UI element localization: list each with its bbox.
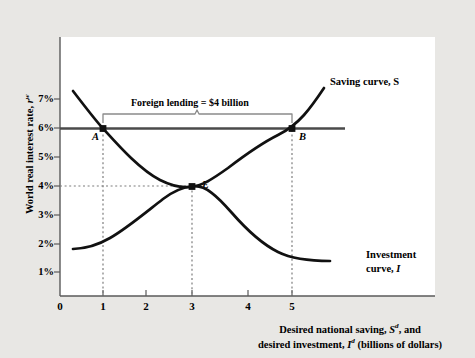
foreign-lending-brace — [103, 110, 292, 123]
y-axis-ticks — [54, 99, 60, 272]
chart-drawing-layer — [0, 0, 475, 358]
figure-container: World real interest rate, rw 7% 6% 5% 4%… — [0, 0, 475, 358]
x-axis-ticks — [103, 290, 292, 296]
point-b-marker — [289, 125, 296, 132]
point-e-marker — [189, 183, 196, 190]
guide-lines — [60, 130, 292, 296]
point-a-marker — [100, 125, 107, 132]
